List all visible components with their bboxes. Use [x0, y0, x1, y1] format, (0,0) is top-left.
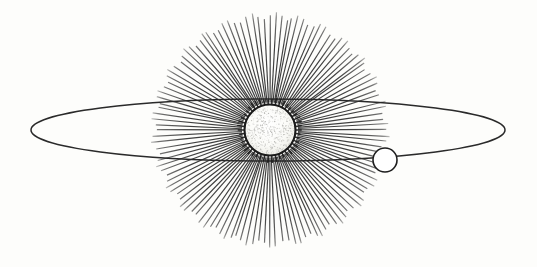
sun-stipple-dot: [286, 118, 287, 119]
sun-stipple-dot: [281, 141, 282, 142]
sun-stipple-dot: [272, 118, 273, 119]
sun-stipple-dot: [269, 137, 270, 138]
sun-stipple-dot: [266, 129, 267, 130]
sun-stipple-dot: [276, 116, 277, 117]
sun-stipple-dot: [281, 129, 282, 130]
sun-stipple-dot: [279, 141, 280, 142]
sun-stipple-dot: [278, 143, 279, 144]
sun-stipple-dot: [274, 131, 275, 132]
sun-stipple-dot: [277, 128, 278, 129]
sun-stipple-dot: [283, 111, 284, 112]
sun-stipple-dot: [271, 136, 272, 137]
sun-stipple-dot: [249, 129, 250, 130]
sun-stipple-dot: [275, 138, 276, 139]
sun-stipple-dot: [269, 120, 270, 121]
sun-stipple-dot: [282, 124, 283, 125]
planet-body: [373, 148, 397, 172]
sun-stipple-dot: [259, 109, 260, 110]
sun-stipple-dot: [280, 109, 281, 110]
sun-stipple-dot: [268, 122, 269, 123]
sun-stipple-dot: [287, 141, 288, 142]
sun-stipple-dot: [259, 138, 260, 139]
sun-stipple-dot: [271, 130, 272, 131]
sun-stipple-dot: [263, 124, 264, 125]
sun-stipple-dot: [260, 149, 261, 150]
sun-stipple-dot: [267, 130, 268, 131]
sun-stipple-dot: [267, 140, 268, 141]
sun-stipple-dot: [262, 112, 263, 113]
sun-stipple-dot: [258, 129, 259, 130]
sun-stipple-dot: [285, 130, 286, 131]
sun-stipple-dot: [285, 128, 286, 129]
sun-stipple-dot: [255, 148, 256, 149]
sun-stipple-dot: [266, 127, 267, 128]
sun-stipple-dot: [257, 118, 258, 119]
sun-stipple-dot: [275, 111, 276, 112]
sun-stipple-dot: [251, 138, 252, 139]
sun-stipple-dot: [251, 116, 252, 117]
sun-stipple-dot: [281, 144, 282, 145]
sun-stipple-dot: [268, 113, 269, 114]
sun-stipple-dot: [246, 133, 247, 134]
sun-stipple-dot: [270, 115, 271, 116]
sun-stipple-dot: [250, 132, 251, 133]
sun-stipple-dot: [267, 132, 268, 133]
sun-stipple-dot: [277, 147, 278, 148]
sun-stipple-dot: [263, 127, 264, 128]
sun-stipple-dot: [273, 153, 274, 154]
sun-stipple-dot: [254, 132, 255, 133]
sun-stipple-dot: [252, 134, 253, 135]
sun-stipple-dot: [286, 132, 287, 133]
sun-stipple-dot: [290, 135, 291, 136]
sun-stipple-dot: [274, 141, 275, 142]
sun-stipple-dot: [266, 151, 267, 152]
sun-stipple-dot: [283, 127, 284, 128]
sun-stipple-dot: [270, 127, 271, 128]
sun-stipple-dot: [275, 146, 276, 147]
sun-stipple-dot: [280, 133, 281, 134]
sun-stipple-dot: [280, 121, 281, 122]
sun-stipple-dot: [272, 147, 273, 148]
sun-stipple-dot: [267, 114, 268, 115]
sun-stipple-dot: [264, 146, 265, 147]
sun-stipple-dot: [257, 125, 258, 126]
sun-stipple-dot: [254, 133, 255, 134]
sun-stipple-dot: [253, 118, 254, 119]
sun-stipple-dot: [248, 122, 249, 123]
sun-stipple-dot: [280, 116, 281, 117]
sun-stipple-dot: [280, 112, 281, 113]
sun-stipple-dot: [278, 151, 279, 152]
sun-flame-tuft: [295, 137, 299, 138]
sun-stipple-dot: [281, 116, 282, 117]
sun-stipple-dot: [249, 133, 250, 134]
sun-stipple-dot: [284, 116, 285, 117]
sun-stipple-dot: [271, 117, 272, 118]
sun-stipple-dot: [261, 150, 262, 151]
sun-stipple-dot: [255, 111, 256, 112]
sun-stipple-dot: [275, 116, 276, 117]
sun-stipple-dot: [278, 134, 279, 135]
sun-stipple-dot: [282, 127, 283, 128]
sun-stipple-dot: [280, 130, 281, 131]
sun-stipple-dot: [256, 145, 257, 146]
sun-stipple-dot: [259, 128, 260, 129]
sun-stipple-dot: [271, 148, 272, 149]
sun-stipple-dot: [288, 117, 289, 118]
sun-stipple-dot: [247, 135, 248, 136]
sun-stipple-dot: [260, 137, 261, 138]
sun-stipple-dot: [254, 136, 255, 137]
sun-stipple-dot: [282, 137, 283, 138]
sun-stipple-dot: [280, 135, 281, 136]
sun-stipple-dot: [274, 129, 275, 130]
sun-stipple-dot: [275, 115, 276, 116]
sun-stipple-dot: [255, 126, 256, 127]
sun-stipple-dot: [289, 127, 290, 128]
sun-flame-tuft: [296, 134, 300, 135]
sun-stipple-dot: [265, 145, 266, 146]
sun-stipple-dot: [253, 136, 254, 137]
sun-stipple-dot: [272, 144, 273, 145]
sun-stipple-dot: [265, 143, 266, 144]
sun-stipple-dot: [289, 124, 290, 125]
sun-stipple-dot: [260, 138, 261, 139]
sun-stipple-dot: [264, 125, 265, 126]
